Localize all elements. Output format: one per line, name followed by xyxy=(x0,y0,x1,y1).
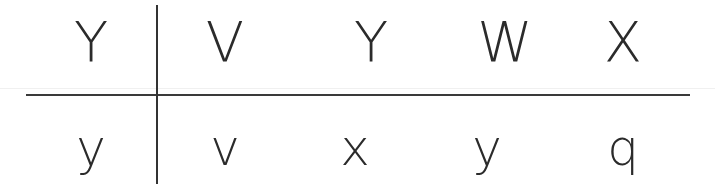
uppercase-cell: X xyxy=(568,12,678,72)
uppercase-cell: V xyxy=(170,12,280,72)
lowercase-cell: v xyxy=(170,118,280,178)
lowercase-cell: y xyxy=(432,118,542,178)
lowercase-cell: x xyxy=(300,118,410,178)
uppercase-cell: Y xyxy=(316,12,426,72)
lowercase-cell-label: y xyxy=(36,118,146,178)
lowercase-cell: q xyxy=(568,118,678,178)
faint-guide-line xyxy=(0,88,715,89)
horizontal-divider xyxy=(26,94,690,96)
vertical-divider xyxy=(156,5,158,184)
uppercase-cell-label: Y xyxy=(36,12,146,72)
uppercase-cell: W xyxy=(450,12,560,72)
